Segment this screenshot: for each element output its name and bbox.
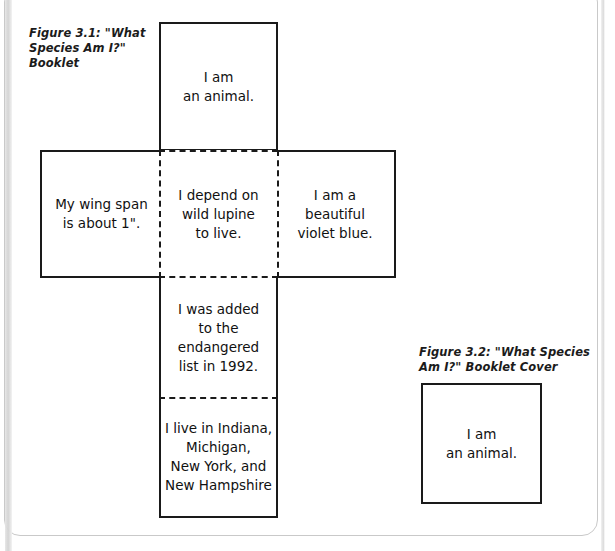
- scanned-page: Figure 3.1: "What Species Am I?" Booklet…: [0, 0, 615, 551]
- panel-right-text: I am a beautiful violet blue.: [297, 186, 372, 243]
- figure-3-2-booklet-cover: I am an animal.: [421, 383, 542, 504]
- panel-left-wing-span: My wing span is about 1".: [40, 150, 161, 278]
- panel-center-text: I depend on wild lupine to live.: [178, 186, 258, 243]
- figure-3-2-caption: Figure 3.2: "What Species Am I?" Booklet…: [419, 345, 594, 375]
- panel-top-text: I am an animal.: [183, 68, 254, 106]
- panel-lower-middle-endangered-list: I was added to the endangered list in 19…: [159, 276, 278, 399]
- panel-lower-middle-text: I was added to the endangered list in 19…: [178, 300, 259, 376]
- panel-bottom-states: I live in Indiana, Michigan, New York, a…: [159, 397, 278, 518]
- panel-left-text: My wing span is about 1".: [55, 195, 148, 233]
- page-gutter-shadow-right: [601, 0, 605, 551]
- figure-3-1-caption: Figure 3.1: "What Species Am I?" Booklet: [29, 26, 159, 71]
- panel-right-violet-blue: I am a beautiful violet blue.: [276, 150, 396, 278]
- panel-center-wild-lupine: I depend on wild lupine to live.: [159, 150, 278, 278]
- page-gutter-shadow-left: [5, 0, 12, 551]
- cover-text: I am an animal.: [446, 425, 517, 463]
- panel-top-i-am-an-animal: I am an animal.: [159, 22, 278, 151]
- panel-bottom-text: I live in Indiana, Michigan, New York, a…: [165, 419, 272, 495]
